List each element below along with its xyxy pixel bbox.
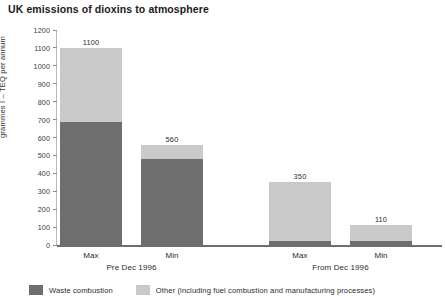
y-axis-tick-label: 400: [38, 169, 57, 178]
y-axis-tickmark: [53, 191, 57, 192]
y-axis-tick-label: 0: [46, 241, 57, 250]
bar-total-value-label: 110: [350, 215, 412, 224]
y-axis-tick-label: 300: [38, 187, 57, 196]
bar-segment-waste-combustion: [350, 241, 412, 245]
y-axis-tick-label: 700: [38, 115, 57, 124]
bar-segment-other: [350, 225, 412, 241]
y-axis-tickmark: [53, 65, 57, 66]
y-axis-tickmark: [53, 173, 57, 174]
legend-label-waste: Waste combustion: [49, 286, 113, 295]
y-axis-tick-label: 1100: [34, 43, 57, 52]
bar-segment-waste-combustion: [60, 122, 122, 245]
bar-stack: [269, 182, 331, 245]
y-axis-title: grammes I – TEQ per annum: [0, 36, 7, 138]
x-axis-group-label: From Dec 1996: [269, 263, 412, 272]
y-axis-tick-label: 100: [38, 223, 57, 232]
chart-legend: Waste combustion Other (including fuel c…: [29, 285, 375, 295]
y-axis-tick-label: 200: [38, 205, 57, 214]
y-axis-tickmark: [53, 30, 57, 31]
x-axis-line: [57, 245, 442, 247]
y-axis-tickmark: [53, 155, 57, 156]
y-axis-tick-label: 1200: [34, 26, 57, 35]
x-axis-group-label: Pre Dec 1996: [60, 263, 203, 272]
y-axis-tick-label: 600: [38, 133, 57, 142]
chart-container: UK emissions of dioxins to atmosphere gr…: [0, 0, 445, 305]
y-axis-tickmark: [53, 119, 57, 120]
bar-total-value-label: 1100: [60, 38, 122, 47]
x-axis-category-label: Max: [269, 251, 331, 260]
bar-total-value-label: 350: [269, 172, 331, 181]
x-axis-category-label: Min: [350, 251, 412, 260]
plot-area: 1200110010009008007006005004003002001000…: [57, 30, 440, 245]
y-axis-tickmark: [53, 83, 57, 84]
bar-segment-other: [141, 145, 203, 159]
bar-total-value-label: 560: [141, 135, 203, 144]
legend-item-waste-combustion: Waste combustion: [29, 285, 113, 295]
y-axis-tickmark: [53, 245, 57, 246]
y-axis-tick-label: 1000: [34, 61, 57, 70]
bar-stack: [141, 145, 203, 245]
bar-stack: [60, 48, 122, 245]
bar-segment-waste-combustion: [269, 241, 331, 245]
x-axis-category-label: Max: [60, 251, 122, 260]
bar-segment-waste-combustion: [141, 159, 203, 245]
bar-stack: [350, 225, 412, 245]
legend-swatch-icon-other: [136, 285, 150, 295]
y-axis-tick-label: 900: [38, 79, 57, 88]
bar-segment-other: [60, 48, 122, 122]
bar-segment-other: [269, 182, 331, 240]
y-axis-tick-label: 800: [38, 97, 57, 106]
x-axis-category-label: Min: [141, 251, 203, 260]
y-axis-tickmark: [53, 47, 57, 48]
y-axis-tickmark: [53, 209, 57, 210]
y-axis-tickmark: [53, 101, 57, 102]
legend-item-other: Other (including fuel combustion and man…: [136, 285, 375, 295]
legend-label-other: Other (including fuel combustion and man…: [156, 286, 375, 295]
y-axis-tickmark: [53, 137, 57, 138]
y-axis-tickmark: [53, 227, 57, 228]
y-axis-tick-label: 500: [38, 151, 57, 160]
chart-title: UK emissions of dioxins to atmosphere: [8, 3, 209, 15]
legend-swatch-icon-waste: [29, 285, 43, 295]
